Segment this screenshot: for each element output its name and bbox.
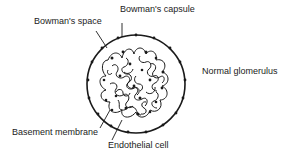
bowmans-space-leader: [96, 31, 107, 48]
label-basement-membrane: Basement membrane: [12, 128, 98, 137]
label-endothelial-cell: Endothelial cell: [108, 141, 169, 150]
label-bowmans-capsule: Bowman's capsule: [120, 5, 195, 14]
label-bowmans-space: Bowman's space: [34, 17, 102, 26]
capillary-tuft: [100, 48, 168, 117]
label-normal-glomerulus: Normal glomerulus: [202, 67, 278, 76]
